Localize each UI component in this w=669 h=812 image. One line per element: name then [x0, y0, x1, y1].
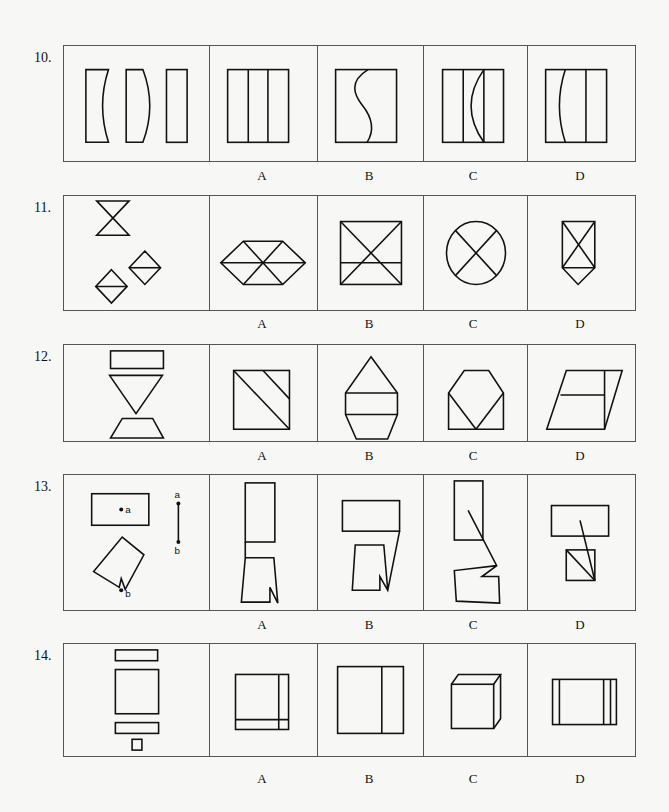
question-number: 12.	[34, 350, 52, 364]
segment-b-label: b	[174, 545, 180, 556]
option-a-figure[interactable]	[209, 644, 318, 756]
option-label-d: D	[570, 771, 590, 787]
option-label-a: A	[252, 617, 272, 633]
stem-figure	[64, 46, 209, 161]
question-13-panel: a b a b	[63, 474, 636, 611]
question-number: 14.	[34, 649, 52, 663]
question-number: 13.	[34, 480, 52, 494]
option-a-figure[interactable]	[209, 475, 318, 610]
option-label-b: B	[359, 168, 379, 184]
option-c-figure[interactable]	[423, 644, 528, 756]
option-a-figure[interactable]	[209, 46, 318, 161]
option-label-b: B	[359, 316, 379, 332]
option-b-figure[interactable]	[317, 644, 424, 756]
option-label-d: D	[570, 617, 590, 633]
option-b-figure[interactable]	[317, 345, 424, 441]
question-number: 10.	[34, 51, 52, 65]
option-label-d: D	[570, 316, 590, 332]
option-a-figure[interactable]	[209, 196, 318, 310]
option-label-b: B	[359, 448, 379, 464]
option-b-figure[interactable]	[317, 46, 424, 161]
stem-figure: a b a b	[64, 475, 209, 610]
option-label-b: B	[359, 771, 379, 787]
option-d-figure[interactable]	[527, 196, 638, 310]
option-c-figure[interactable]	[423, 46, 528, 161]
question-number: 11.	[34, 201, 51, 215]
question-10-panel	[63, 45, 636, 162]
option-d-figure[interactable]	[527, 644, 638, 756]
option-label-c: C	[463, 316, 483, 332]
option-label-c: C	[463, 168, 483, 184]
stem-figure	[64, 345, 209, 441]
option-d-figure[interactable]	[527, 475, 638, 610]
segment-a-label: a	[174, 489, 180, 500]
option-label-d: D	[570, 168, 590, 184]
question-12-panel	[63, 344, 636, 442]
option-label-c: C	[463, 617, 483, 633]
option-c-figure[interactable]	[423, 345, 528, 441]
stem-figure	[64, 196, 209, 310]
option-label-d: D	[570, 448, 590, 464]
option-label-a: A	[252, 448, 272, 464]
option-d-figure[interactable]	[527, 46, 638, 161]
option-label-b: B	[359, 617, 379, 633]
option-a-figure[interactable]	[209, 345, 318, 441]
option-b-figure[interactable]	[317, 196, 424, 310]
option-d-figure[interactable]	[527, 345, 638, 441]
question-11-panel	[63, 195, 636, 311]
point-a-label: a	[125, 504, 131, 515]
option-b-figure[interactable]	[317, 475, 424, 610]
stem-figure	[64, 644, 209, 756]
option-label-a: A	[252, 316, 272, 332]
option-c-figure[interactable]	[423, 475, 528, 610]
option-label-a: A	[252, 168, 272, 184]
question-14-panel	[63, 643, 636, 757]
option-c-figure[interactable]	[423, 196, 528, 310]
option-label-c: C	[463, 771, 483, 787]
option-label-c: C	[463, 448, 483, 464]
point-b-label: b	[125, 588, 131, 599]
option-label-a: A	[252, 771, 272, 787]
